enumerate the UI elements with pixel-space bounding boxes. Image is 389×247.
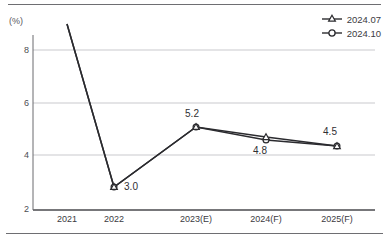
y-tick-label-8: 8 [11, 45, 29, 55]
x-tick-label-2023e: 2023(E) [180, 214, 212, 224]
series-markers-2024-10 [111, 124, 340, 190]
data-label-2022: 3.0 [124, 181, 138, 192]
series-line-2024-10 [67, 24, 337, 187]
x-tick-label-2021: 2021 [57, 214, 77, 224]
data-label-2024f: 4.8 [253, 145, 267, 156]
gridlines [33, 50, 375, 155]
y-tick-label-2: 2 [11, 204, 29, 214]
data-label-2025f: 4.5 [323, 126, 337, 137]
chart-plot-area [0, 0, 389, 247]
chart-screenshot: (%) 2024.07 2024.10 [0, 0, 389, 247]
y-tick-label-6: 6 [11, 98, 29, 108]
x-tick-label-2025f: 2025(F) [321, 214, 353, 224]
series-markers-2024-07 [111, 124, 341, 190]
x-tick-label-2022: 2022 [104, 214, 124, 224]
x-tick-label-2024f: 2024(F) [250, 214, 282, 224]
data-label-2023e: 5.2 [185, 108, 199, 119]
y-tick-label-4: 4 [11, 150, 29, 160]
